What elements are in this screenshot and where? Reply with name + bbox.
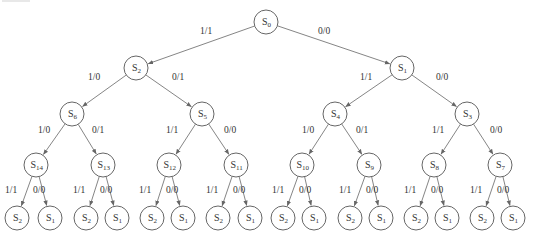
transition-label: 1/1: [339, 185, 351, 195]
state-node: S2: [338, 206, 362, 230]
state-node: S10: [290, 153, 314, 177]
state-node: S1: [38, 206, 62, 230]
transition-label: 0/0: [224, 125, 236, 135]
transition-arrow: [354, 176, 365, 206]
transition-label: 1/1: [139, 185, 151, 195]
transition-arrow: [222, 176, 232, 205]
state-node: S13: [91, 153, 115, 177]
transition-label: 1/1: [200, 26, 212, 36]
transition-label: 1/1: [5, 185, 17, 195]
state-node: S1: [501, 206, 525, 230]
state-node: S9: [357, 153, 381, 177]
transition-arrow: [277, 26, 389, 64]
state-node: S1: [435, 206, 459, 230]
transition-arrow: [146, 75, 192, 107]
transition-label: 0/0: [233, 185, 245, 195]
state-node: S2: [271, 206, 295, 230]
state-node: S2: [470, 206, 494, 230]
transition-label: 0/0: [490, 125, 502, 135]
state-tree-diagram: 1/10/01/00/11/10/01/00/11/10/01/00/11/10…: [0, 0, 534, 236]
transition-arrow: [176, 124, 195, 154]
state-node: S2: [5, 206, 29, 230]
state-node: S1: [390, 56, 414, 80]
state-node: S11: [224, 153, 248, 177]
transition-label: 1/0: [38, 125, 50, 135]
state-node: S2: [404, 206, 428, 230]
transition-arrow: [412, 75, 457, 107]
transition-label: 1/1: [73, 185, 85, 195]
state-node: S14: [24, 153, 48, 177]
state-node: S12: [157, 153, 181, 177]
transition-label: 1/1: [404, 185, 416, 195]
transition-label: 0/1: [92, 125, 104, 135]
transition-label: 1/0: [302, 125, 314, 135]
state-node: S1: [369, 206, 393, 230]
transition-label: 0/0: [33, 185, 45, 195]
transition-arrow: [90, 176, 99, 205]
transition-label: 1/1: [166, 125, 178, 135]
transition-label: 0/1: [172, 72, 184, 82]
state-node: S5: [190, 102, 214, 126]
transition-label: 0/1: [356, 125, 368, 135]
transition-arrow: [21, 176, 32, 206]
edges-layer: [21, 26, 510, 206]
transition-arrow: [156, 176, 165, 205]
transition-label: 0/0: [497, 185, 509, 195]
transition-label: 0/0: [436, 72, 448, 82]
state-node: S1: [171, 206, 195, 230]
transition-arrow: [287, 176, 298, 206]
state-node: S1: [302, 206, 326, 230]
transition-label: 0/0: [299, 185, 311, 195]
state-node: S1: [238, 206, 262, 230]
transition-label: 1/1: [470, 185, 482, 195]
transition-label: 1/1: [206, 185, 218, 195]
state-node: S8: [422, 153, 446, 177]
transition-label: 1/0: [88, 72, 100, 82]
state-node: S4: [323, 102, 347, 126]
transition-label: 0/0: [166, 185, 178, 195]
state-node: S1: [105, 206, 129, 230]
transition-label: 0/0: [431, 185, 443, 195]
transition-label: 1/1: [360, 72, 372, 82]
transition-arrow: [420, 176, 430, 205]
transition-label: 0/0: [366, 185, 378, 195]
transition-arrow: [486, 176, 496, 205]
state-node: S2: [206, 206, 230, 230]
transition-label: 0/0: [100, 185, 112, 195]
state-node: S6: [60, 102, 84, 126]
state-node: S2: [74, 206, 98, 230]
nodes-layer: S0S2S1S6S5S4S3S14S13S12S11S10S9S8S7S2S1S…: [5, 10, 525, 230]
transition-label: 0/0: [318, 26, 330, 36]
transition-label: 1/1: [272, 185, 284, 195]
state-node: S2: [140, 206, 164, 230]
state-node: S3: [455, 102, 479, 126]
state-node: S2: [124, 56, 148, 80]
state-node: S0: [254, 10, 278, 34]
state-node: S7: [488, 153, 512, 177]
transition-label: 1/1: [432, 125, 444, 135]
